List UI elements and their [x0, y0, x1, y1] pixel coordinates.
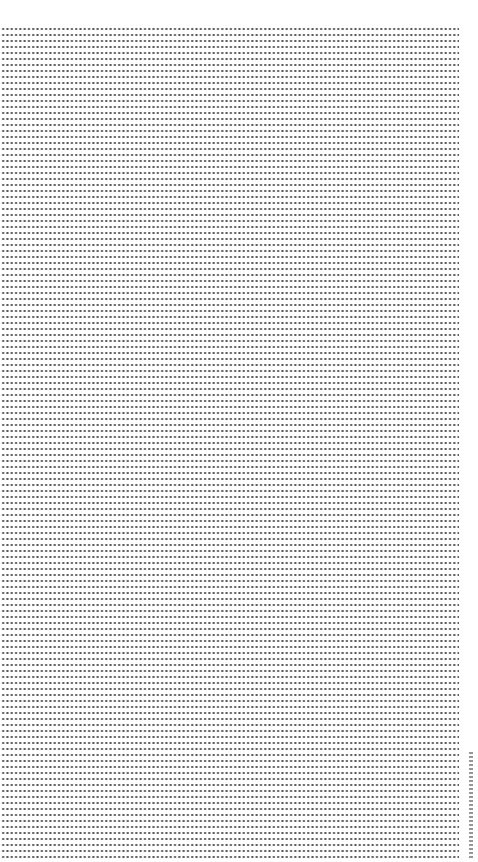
vertical-margin-label — [466, 752, 476, 858]
margin-label-glyphs — [469, 752, 473, 858]
dot-grid — [1, 26, 459, 862]
dot-grid-page — [0, 0, 478, 862]
